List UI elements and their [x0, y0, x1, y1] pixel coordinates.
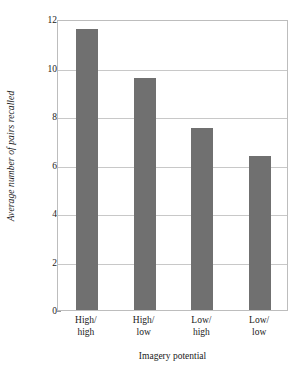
x-axis-tick-label-line1: High/ — [114, 315, 174, 327]
bar — [191, 128, 213, 310]
x-axis-tick-label: Low/low — [229, 315, 289, 338]
x-axis-tick-label-line2: low — [229, 327, 289, 339]
bar — [249, 156, 271, 310]
y-axis-tick-mark — [57, 311, 61, 312]
y-axis-title: Average number of pairs recalled — [0, 0, 22, 311]
y-axis-title-text: Average number of pairs recalled — [6, 90, 16, 221]
x-axis-tick-label-line2: low — [114, 327, 174, 339]
x-axis-title: Imagery potential — [57, 351, 288, 361]
y-axis-tick-label: 2 — [27, 258, 57, 268]
y-axis-tick-label: 8 — [27, 112, 57, 122]
y-axis-tick-label: 12 — [27, 15, 57, 25]
x-axis-tick-label: High/high — [56, 315, 116, 338]
x-axis-tick-label-line2: high — [56, 327, 116, 339]
x-axis-tick-label-line1: High/ — [56, 315, 116, 327]
y-axis-tick-label: 0 — [27, 306, 57, 316]
x-axis-tick-label-line1: Low/ — [229, 315, 289, 327]
y-axis-ticks: 024681012 — [20, 20, 57, 311]
bar — [76, 29, 98, 310]
x-axis-tick-label-line2: high — [171, 327, 231, 339]
x-axis-tick-label: Low/high — [171, 315, 231, 338]
x-axis-tick-labels: High/highHigh/lowLow/highLow/low — [57, 315, 288, 351]
bar — [134, 78, 156, 310]
x-axis-tick-label: High/low — [114, 315, 174, 338]
y-axis-tick-label: 10 — [27, 64, 57, 74]
y-axis-tick-label: 6 — [27, 161, 57, 171]
plot-area — [57, 20, 288, 311]
y-axis-tick-label: 4 — [27, 209, 57, 219]
x-axis-tick-label-line1: Low/ — [171, 315, 231, 327]
bar-chart-figure: Average number of pairs recalled 0246810… — [0, 0, 301, 375]
